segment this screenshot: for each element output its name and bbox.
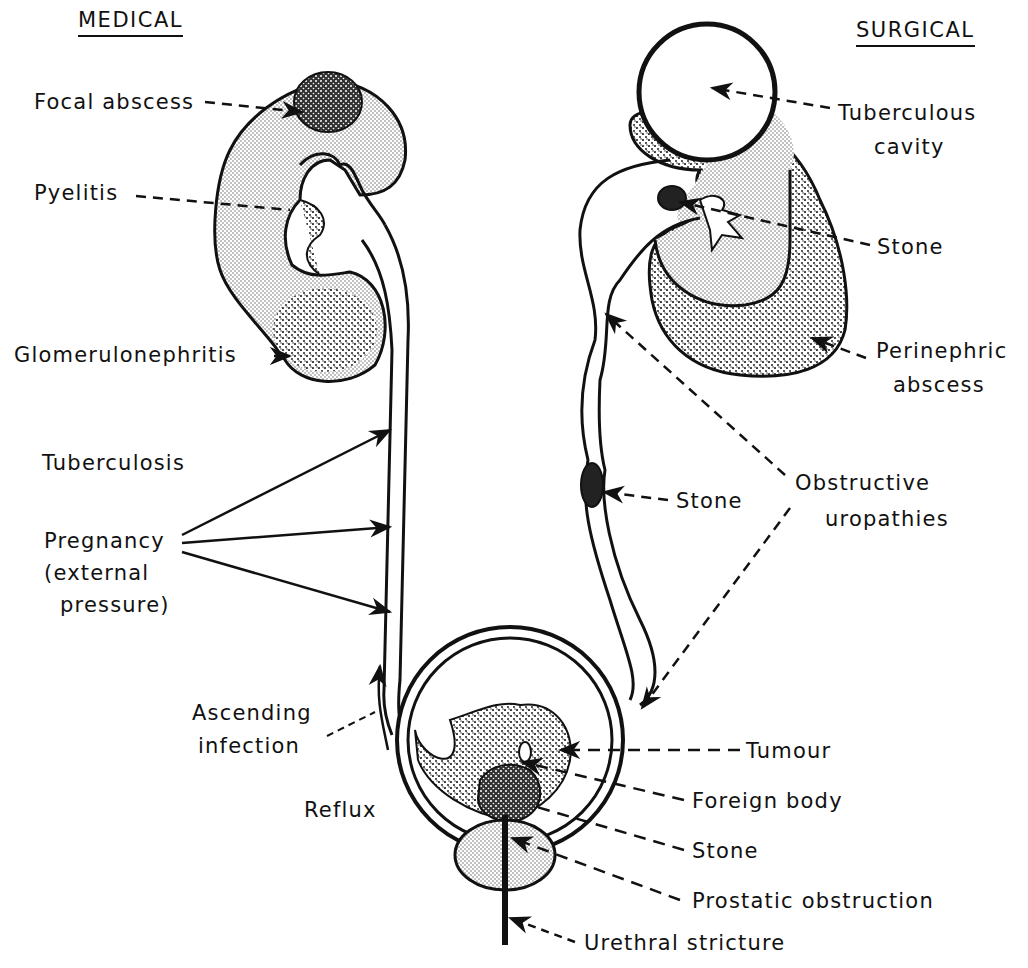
label-tumour: Tumour xyxy=(746,738,831,764)
label-perinephric-line2: abscess xyxy=(893,372,985,398)
label-stone-bladder: Stone xyxy=(692,838,759,864)
urinary-tract-diagram: MEDICAL SURGICAL Focal abscess Pyelitis … xyxy=(0,0,1028,968)
label-pyelitis: Pyelitis xyxy=(34,180,118,206)
label-pregnancy-line3: pressure) xyxy=(60,592,170,618)
label-ascending-line2: infection xyxy=(198,733,300,759)
medical-kidney xyxy=(215,72,406,381)
label-focal-abscess: Focal abscess xyxy=(34,89,194,115)
surgical-kidney xyxy=(630,24,847,376)
label-foreign-body: Foreign body xyxy=(692,788,843,814)
label-reflux: Reflux xyxy=(304,797,377,823)
label-tuberculous-cavity: Tuberculous xyxy=(838,100,976,126)
label-obstructive-line2: uropathies xyxy=(825,506,949,532)
label-pregnancy-line2: (external xyxy=(44,560,149,586)
label-urethral-stricture: Urethral stricture xyxy=(584,930,785,956)
label-ascending: Ascending xyxy=(192,700,312,726)
ureter-stone xyxy=(581,463,603,507)
header-medical: MEDICAL xyxy=(78,8,183,37)
label-glomerulonephritis: Glomerulonephritis xyxy=(14,342,237,368)
label-stone-ureter: Stone xyxy=(676,488,743,514)
label-stone-kidney: Stone xyxy=(877,234,944,260)
label-perinephric: Perinephric xyxy=(876,338,1007,364)
label-pregnancy: Pregnancy xyxy=(44,528,165,554)
label-prostatic-obstruction: Prostatic obstruction xyxy=(692,888,934,914)
header-surgical: SURGICAL xyxy=(856,18,975,47)
label-obstructive: Obstructive xyxy=(795,470,930,496)
label-tuberculosis: Tuberculosis xyxy=(42,450,185,476)
label-tuberculous-cavity-line2: cavity xyxy=(874,134,945,160)
